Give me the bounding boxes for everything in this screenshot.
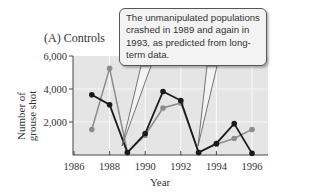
annotation-callout: The unmanipulated populations crashed in…	[119, 8, 267, 66]
y-tick-label: 6,000	[43, 51, 67, 62]
data-point	[160, 89, 166, 95]
x-tick-label: 1988	[99, 161, 120, 172]
y-tick-label: 4,000	[43, 84, 67, 95]
data-point	[231, 121, 237, 127]
data-point	[107, 66, 113, 72]
x-tick-label: 1994	[206, 161, 228, 172]
y-tick-label: 2,000	[43, 117, 67, 128]
data-point	[196, 150, 202, 156]
y-ticks: 6,0004,0002,000	[43, 51, 73, 128]
x-tick-label: 1996	[242, 161, 263, 172]
x-tick-label: 1986	[64, 161, 85, 172]
x-axis-label: Year	[150, 176, 170, 188]
data-point	[249, 151, 255, 157]
x-tick-label: 1992	[170, 161, 191, 172]
data-point	[89, 92, 95, 98]
data-point	[107, 102, 113, 108]
data-point	[231, 136, 237, 142]
x-tick-label: 1990	[135, 161, 156, 172]
data-point	[160, 105, 166, 111]
data-point	[89, 127, 95, 133]
data-point	[178, 98, 184, 104]
data-point	[249, 127, 255, 133]
data-point	[142, 131, 148, 137]
data-point	[125, 150, 131, 156]
data-point	[214, 141, 220, 147]
